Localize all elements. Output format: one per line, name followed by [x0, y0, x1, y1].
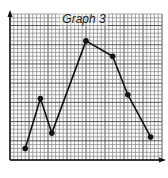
- chart-grid: [10, 14, 162, 160]
- data-point-marker: [22, 146, 28, 152]
- data-point-marker: [83, 38, 89, 44]
- data-point-marker: [110, 53, 116, 59]
- data-point-marker: [49, 130, 55, 136]
- data-point-marker: [148, 134, 154, 140]
- line-chart: Graph 3: [0, 0, 168, 178]
- chart-title: Graph 3: [62, 12, 106, 26]
- y-axis-arrow-icon: [8, 10, 13, 17]
- data-point-marker: [125, 92, 131, 98]
- data-point-marker: [38, 96, 44, 102]
